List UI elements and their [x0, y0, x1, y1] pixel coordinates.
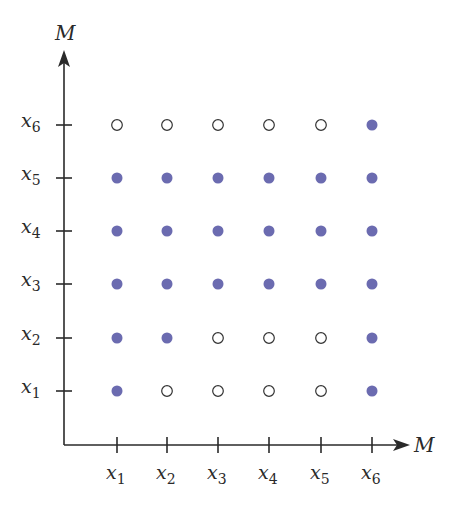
filled-point-icon	[213, 226, 224, 237]
x-tick-label: x6	[361, 461, 381, 487]
y-tick-label: x3	[21, 268, 41, 294]
filled-point-icon	[112, 173, 123, 184]
filled-point-icon	[367, 226, 378, 237]
axes	[58, 50, 410, 451]
filled-point-icon	[264, 279, 275, 290]
open-point-icon	[162, 120, 173, 131]
open-point-icon	[213, 386, 224, 397]
y-tick-label: x4	[21, 215, 41, 241]
filled-point-icon	[162, 279, 173, 290]
y-tick-label: x5	[21, 162, 41, 188]
x-tick-label: x5	[310, 461, 330, 487]
y-tick-label: x6	[21, 109, 41, 135]
open-point-icon	[213, 333, 224, 344]
open-point-icon	[316, 333, 327, 344]
filled-point-icon	[162, 333, 173, 344]
filled-point-icon	[213, 279, 224, 290]
open-point-icon	[264, 333, 275, 344]
filled-point-icon	[367, 386, 378, 397]
filled-point-icon	[367, 173, 378, 184]
open-point-icon	[264, 386, 275, 397]
filled-point-icon	[162, 173, 173, 184]
filled-point-icon	[316, 226, 327, 237]
y-tick-label: x2	[21, 322, 41, 348]
filled-point-icon	[264, 173, 275, 184]
filled-point-icon	[316, 279, 327, 290]
filled-point-icon	[112, 226, 123, 237]
points	[112, 120, 378, 397]
relation-diagram: M M x1x2x3x4x5x6x1x2x3x4x5x6	[0, 0, 459, 506]
x-tick-label: x4	[258, 461, 278, 487]
filled-point-icon	[367, 333, 378, 344]
filled-point-icon	[112, 386, 123, 397]
filled-point-icon	[264, 226, 275, 237]
filled-point-icon	[367, 120, 378, 131]
filled-point-icon	[112, 279, 123, 290]
open-point-icon	[213, 120, 224, 131]
y-axis-label: M	[54, 21, 76, 45]
open-point-icon	[316, 386, 327, 397]
ticks: x1x2x3x4x5x6x1x2x3x4x5x6	[21, 109, 381, 487]
filled-point-icon	[213, 173, 224, 184]
filled-point-icon	[316, 173, 327, 184]
filled-point-icon	[112, 333, 123, 344]
filled-point-icon	[367, 279, 378, 290]
x-tick-label: x3	[207, 461, 227, 487]
open-point-icon	[162, 386, 173, 397]
open-point-icon	[112, 120, 123, 131]
filled-point-icon	[162, 226, 173, 237]
x-tick-label: x1	[106, 461, 126, 487]
y-tick-label: x1	[21, 375, 41, 401]
open-point-icon	[264, 120, 275, 131]
open-point-icon	[316, 120, 327, 131]
x-tick-label: x2	[156, 461, 176, 487]
x-axis-label: M	[413, 433, 435, 457]
